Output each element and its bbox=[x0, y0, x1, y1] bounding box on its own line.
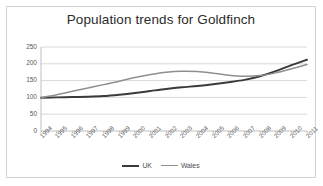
chart-card: Population trends for Goldfinch 05010015… bbox=[6, 6, 316, 178]
x-axis-tick-label: 2000 bbox=[132, 125, 146, 139]
x-axis-tick-label: 2007 bbox=[242, 125, 256, 139]
legend-label-uk: UK bbox=[142, 162, 151, 169]
x-axis-tick-label: 2009 bbox=[273, 125, 287, 139]
legend-label-wales: Wales bbox=[181, 162, 200, 169]
x-axis-tick-label: 2010 bbox=[289, 125, 303, 139]
x-axis-tick-label: 2005 bbox=[211, 125, 225, 139]
legend-line-icon-wales bbox=[161, 165, 178, 166]
x-axis-labels: 1994199519961997199819992000200120022003… bbox=[7, 7, 317, 179]
x-axis-tick-label: 2002 bbox=[164, 125, 178, 139]
x-axis-tick-label: 1997 bbox=[85, 125, 99, 139]
x-axis-tick-label: 2008 bbox=[258, 125, 272, 139]
x-axis-tick-label: 2001 bbox=[148, 125, 162, 139]
x-axis-tick-label: 1994 bbox=[39, 125, 53, 139]
x-axis-tick-label: 2006 bbox=[226, 125, 240, 139]
x-axis-tick-label: 1996 bbox=[70, 125, 84, 139]
legend-item-wales[interactable]: Wales bbox=[161, 162, 200, 169]
x-axis-tick-label: 2011 bbox=[305, 125, 319, 139]
legend-line-icon-uk bbox=[122, 165, 139, 167]
x-axis-tick-label: 2004 bbox=[195, 125, 209, 139]
x-axis-tick-label: 1995 bbox=[54, 125, 68, 139]
x-axis-tick-label: 2003 bbox=[179, 125, 193, 139]
x-axis-tick-label: 1998 bbox=[101, 125, 115, 139]
chart-legend: UK Wales bbox=[7, 162, 315, 169]
x-axis-tick-label: 1999 bbox=[117, 125, 131, 139]
legend-item-uk[interactable]: UK bbox=[122, 162, 151, 169]
